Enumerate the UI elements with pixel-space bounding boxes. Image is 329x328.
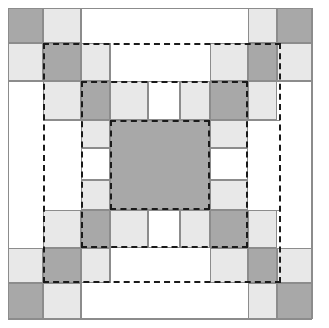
cell-r3-c8	[248, 81, 277, 120]
vline-left-frame	[8, 8, 9, 319]
cell-r2-c1	[8, 43, 43, 81]
cell-r4-c7	[210, 120, 248, 148]
cell-r9-c2	[43, 283, 81, 319]
cell-r8-c8	[248, 248, 277, 283]
cell-r3-c2	[43, 81, 81, 120]
cell-r7-c3	[81, 210, 110, 248]
cell-r1-c1	[8, 8, 43, 43]
cell-r2-c8	[248, 43, 277, 81]
vline-right-frame	[312, 8, 313, 319]
diagram-canvas: Nested self-similar square quilt pattern…	[0, 0, 329, 328]
vline-col7-bottom	[248, 210, 249, 319]
cell-r7-c2	[43, 210, 81, 248]
cell-r7-c7	[210, 210, 248, 248]
cell-center-block	[110, 120, 210, 210]
hline-bottom-frame	[8, 319, 312, 320]
cell-r5-c7	[210, 148, 248, 180]
vline-center-d	[180, 210, 181, 248]
vline-col7-top	[248, 8, 249, 110]
cell-r9-c9	[277, 283, 312, 319]
vline-center-a	[148, 81, 149, 120]
vline-col6-top	[210, 43, 211, 148]
vline-col2-bottom	[81, 210, 82, 319]
cell-r2-c3	[81, 43, 110, 81]
cell-r6-c7	[210, 180, 248, 210]
vline-center-b	[180, 81, 181, 120]
vline-col3-top	[110, 43, 111, 148]
cell-r2-c9	[277, 43, 312, 81]
hline-row2-left	[8, 81, 110, 82]
cell-r1-c8	[248, 8, 277, 43]
hline-row3-right	[180, 120, 280, 121]
cell-r3-c4	[110, 81, 148, 120]
hline-row7-left	[43, 210, 148, 211]
cell-r7-c8	[248, 210, 277, 248]
cell-r8-c9	[277, 248, 312, 283]
vline-col2-top	[81, 8, 82, 110]
cell-r1-c9	[277, 8, 312, 43]
hline-mid-right	[210, 248, 312, 249]
hline-mid-left	[8, 248, 110, 249]
cell-r8-c3	[81, 248, 110, 283]
cell-r7-c4	[110, 210, 148, 248]
cell-r2-c2	[43, 43, 81, 81]
hline-top-frame	[8, 8, 312, 9]
vline-col6-bottom	[210, 180, 211, 283]
cell-r3-c7	[210, 81, 248, 120]
vline-center-c	[148, 210, 149, 248]
cell-r7-c5	[148, 210, 180, 248]
cell-r4-c3	[81, 120, 110, 148]
cell-r3-c3	[81, 81, 110, 120]
hline-row7-right	[180, 210, 280, 211]
cell-r8-c2	[43, 248, 81, 283]
cell-r7-c6	[180, 210, 210, 248]
vline-col3-bottom	[110, 180, 111, 283]
cell-r1-c2	[43, 8, 81, 43]
cell-r3-c6	[180, 81, 210, 120]
cell-r5-c3	[81, 148, 110, 180]
cell-r8-c1	[8, 248, 43, 283]
hline-row2-right	[210, 81, 312, 82]
cell-r8-c7	[210, 248, 248, 283]
cell-r2-c7	[210, 43, 248, 81]
cell-r3-c5	[148, 81, 180, 120]
cell-r9-c8	[248, 283, 277, 319]
hline-row3-left	[43, 120, 148, 121]
cell-r9-c1	[8, 283, 43, 319]
cell-r6-c3	[81, 180, 110, 210]
